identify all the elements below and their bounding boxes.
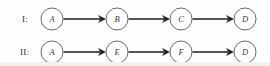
node-label: D	[241, 47, 249, 57]
graph-node[interactable]: D	[234, 8, 256, 30]
node-label: D	[241, 14, 249, 24]
node-label: A	[48, 14, 55, 24]
node-label: A	[48, 47, 55, 57]
node-label: B	[114, 14, 119, 24]
path-diagram-figure: I:ABCDII:AEFD	[0, 0, 270, 66]
node-label: C	[178, 14, 184, 24]
graph-node[interactable]: E	[106, 41, 128, 63]
diagram-row: II:AEFD	[20, 41, 256, 63]
diagram-row: I:ABCD	[22, 8, 256, 30]
row-label-row-1: I:	[22, 14, 28, 24]
graph-node[interactable]: A	[41, 41, 63, 63]
figure-bottom-band	[0, 62, 270, 66]
row-label-row-2: II:	[20, 47, 29, 57]
node-label: F	[177, 47, 184, 57]
graph-node[interactable]: C	[170, 8, 192, 30]
graph-node[interactable]: F	[170, 41, 192, 63]
diagram-canvas: I:ABCDII:AEFD	[0, 0, 270, 66]
graph-node[interactable]: B	[106, 8, 128, 30]
node-label: E	[113, 47, 120, 57]
graph-node[interactable]: D	[234, 41, 256, 63]
graph-node[interactable]: A	[41, 8, 63, 30]
